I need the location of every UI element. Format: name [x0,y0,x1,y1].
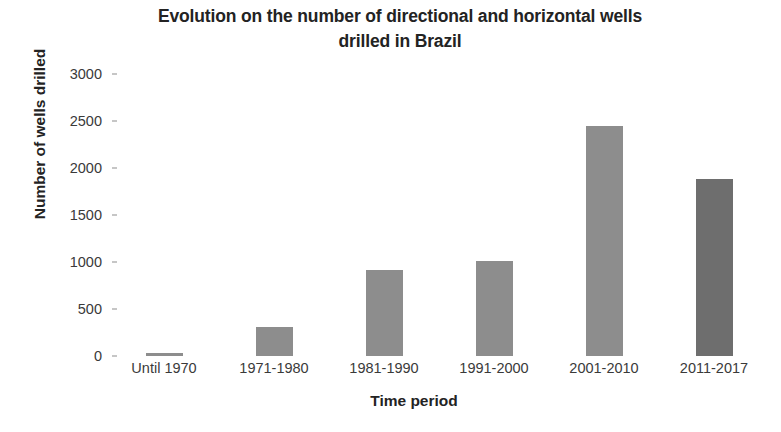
bar-2011-2017[interactable] [696,179,733,356]
bar-2001-2010[interactable] [586,126,623,356]
x-axis-tick-label: 1991-2000 [434,360,554,376]
bar-until-1970[interactable] [146,353,183,356]
bar-1981-1990[interactable] [366,270,403,356]
chart-title-line-1: Evolution on the number of directional a… [90,4,710,29]
x-axis-tick-label: Until 1970 [104,360,224,376]
y-axis-ticks: 050010001500200025003000 [0,74,112,356]
y-axis-tick-mark [112,74,117,75]
y-axis-tick-mark [112,215,117,216]
bar-1971-1980[interactable] [256,327,293,356]
y-axis-tick-mark [112,309,117,310]
y-axis-tick-label: 2000 [70,160,102,176]
x-axis-label: Time period [118,392,710,410]
chart-title: Evolution on the number of directional a… [90,4,710,55]
bar-1991-2000[interactable] [476,261,513,356]
chart-title-line-2: drilled in Brazil [90,29,710,54]
x-axis-tick-label: 1981-1990 [324,360,444,376]
x-axis-tick-label: 2001-2010 [544,360,664,376]
y-axis-tick-label: 0 [94,348,102,364]
plot-area [118,74,773,356]
y-axis-tick-label: 500 [78,301,102,317]
y-axis-tick-mark [112,121,117,122]
x-axis-ticks: Until 19701971-19801981-19901991-2000200… [118,360,773,386]
y-axis-tick-mark [112,168,117,169]
y-axis-tick-label: 2500 [70,113,102,129]
x-axis-tick-label: 2011-2017 [654,360,774,376]
x-axis-tick-label: 1971-1980 [214,360,334,376]
y-axis-tick-label: 1500 [70,207,102,223]
y-axis-tick-mark [112,356,117,357]
y-axis-tick-label: 1000 [70,254,102,270]
bar-chart-figure: Evolution on the number of directional a… [0,0,781,432]
y-axis-tick-mark [112,262,117,263]
y-axis-tick-label: 3000 [70,66,102,82]
